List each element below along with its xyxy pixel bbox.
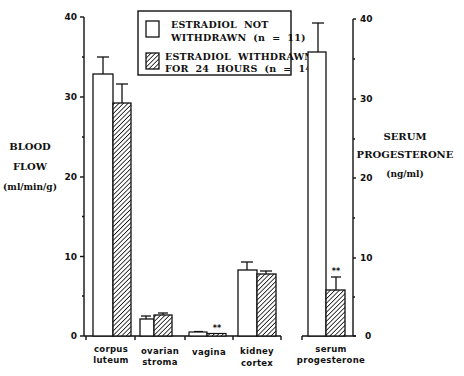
legend-swatch-not-withdrawn bbox=[146, 21, 159, 37]
category-label-kidney: kidney bbox=[240, 346, 274, 356]
bar-vagina-withdrawn bbox=[207, 334, 226, 337]
right-tick-20: 20 bbox=[360, 173, 373, 183]
right-tick-10: 10 bbox=[360, 253, 373, 263]
bar-group-corpus-luteum bbox=[93, 57, 131, 336]
left-tick-0: 0 bbox=[71, 331, 77, 341]
legend-swatch-withdrawn bbox=[146, 53, 159, 69]
category-label-ovarian: ovarian bbox=[141, 346, 179, 356]
left-axis-title-line1: BLOOD bbox=[9, 141, 51, 152]
right-tick-0: 0 bbox=[365, 331, 371, 341]
right-axis-title-line3: (ng/ml) bbox=[386, 169, 424, 179]
bar-kidney-cortex-withdrawn bbox=[257, 274, 276, 336]
right-axis-title-line2: PROGESTERONE bbox=[357, 149, 454, 160]
bar-serum-progesterone-withdrawn bbox=[326, 290, 345, 336]
category-label-luteum: luteum bbox=[93, 355, 129, 365]
legend-label-withdrawn-line1: ESTRADIOL WITHDRAWN bbox=[165, 51, 313, 62]
bar-vagina-not-withdrawn bbox=[189, 332, 207, 336]
bar-group-ovarian-stroma bbox=[140, 313, 172, 336]
category-label-serum: serum bbox=[315, 344, 346, 354]
bar-group-serum-progesterone: ** bbox=[308, 23, 345, 336]
legend-label-withdrawn-line2: FOR 24 HOURS (n = 14) bbox=[165, 63, 317, 74]
bar-ovarian-stroma-withdrawn bbox=[154, 315, 172, 336]
chart: 0 10 20 30 40 BLOOD FLOW (ml/min/g) bbox=[0, 0, 464, 376]
left-axis-title-line3: (ml/min/g) bbox=[3, 182, 57, 192]
category-label-progesterone: progesterone bbox=[297, 355, 365, 365]
significance-marker-vagina: ** bbox=[213, 324, 222, 333]
legend-label-not-withdrawn-line1: ESTRADIOL NOT bbox=[171, 19, 269, 30]
left-tick-10: 10 bbox=[64, 252, 77, 262]
bar-group-kidney-cortex bbox=[238, 262, 276, 336]
left-tick-20: 20 bbox=[64, 172, 77, 182]
bar-ovarian-stroma-not-withdrawn bbox=[140, 319, 154, 336]
bar-serum-progesterone-not-withdrawn bbox=[308, 52, 326, 336]
left-tick-40: 40 bbox=[64, 12, 77, 22]
category-label-cortex: cortex bbox=[241, 358, 273, 368]
right-panel: 0 10 20 30 40 SERUM PROGESTERONE (ng/ml)… bbox=[297, 14, 454, 365]
category-label-corpus: corpus bbox=[94, 344, 128, 354]
significance-marker-serum: ** bbox=[332, 267, 341, 276]
bar-group-vagina: ** bbox=[189, 324, 226, 336]
left-axis-title-line2: FLOW bbox=[13, 161, 48, 172]
left-tick-30: 30 bbox=[64, 92, 77, 102]
legend: ESTRADIOL NOT WITHDRAWN (n = 11) ESTRADI… bbox=[138, 11, 317, 75]
right-tick-30: 30 bbox=[360, 94, 373, 104]
category-label-vagina: vagina bbox=[192, 347, 226, 357]
right-tick-40: 40 bbox=[360, 14, 373, 24]
right-axis-title-line1: SERUM bbox=[384, 131, 427, 142]
bar-kidney-cortex-not-withdrawn bbox=[238, 270, 257, 336]
category-label-stroma-text: stroma bbox=[142, 357, 178, 367]
bar-corpus-luteum-withdrawn bbox=[113, 103, 131, 336]
legend-label-not-withdrawn-line2: WITHDRAWN (n = 11) bbox=[170, 32, 306, 43]
bar-corpus-luteum-not-withdrawn bbox=[93, 74, 113, 336]
